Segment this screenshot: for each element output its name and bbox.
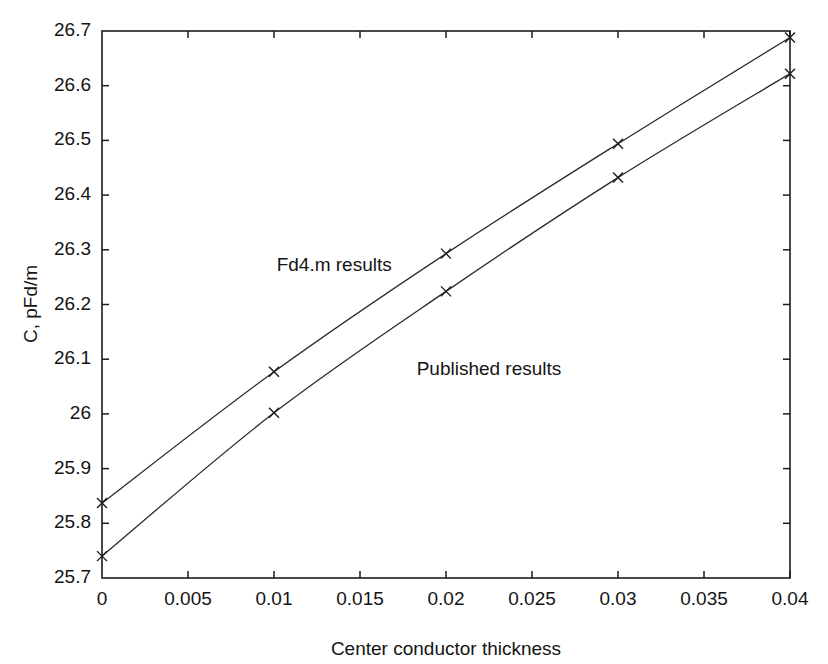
x-axis-title: Center conductor thickness bbox=[331, 638, 561, 659]
x-tick-label: 0.03 bbox=[600, 588, 637, 609]
x-tick-label: 0.02 bbox=[428, 588, 465, 609]
y-tick-label: 26.3 bbox=[54, 238, 91, 259]
y-tick-label: 25.9 bbox=[54, 457, 91, 478]
annotation-fd4m-results: Fd4.m results bbox=[277, 254, 392, 275]
y-axis-title: C, pFd/m bbox=[20, 265, 41, 343]
y-tick-label: 26.7 bbox=[54, 19, 91, 40]
y-tick-label: 26.5 bbox=[54, 128, 91, 149]
annotation-published-results: Published results bbox=[417, 358, 562, 379]
x-tick-label: 0.005 bbox=[164, 588, 212, 609]
y-tick-label: 26 bbox=[70, 402, 91, 423]
y-tick-label: 25.7 bbox=[54, 566, 91, 587]
chart-background bbox=[0, 0, 828, 664]
y-tick-label: 26.2 bbox=[54, 293, 91, 314]
capacitance-line-chart: 00.0050.010.0150.020.0250.030.0350.04 25… bbox=[0, 0, 828, 664]
y-tick-label: 26.6 bbox=[54, 74, 91, 95]
x-tick-label: 0.015 bbox=[336, 588, 384, 609]
chart-figure: 00.0050.010.0150.020.0250.030.0350.04 25… bbox=[0, 0, 828, 664]
y-tick-label: 25.8 bbox=[54, 511, 91, 532]
x-tick-label: 0.01 bbox=[256, 588, 293, 609]
x-axis-tick-labels: 00.0050.010.0150.020.0250.030.0350.04 bbox=[97, 588, 809, 609]
y-tick-label: 26.4 bbox=[54, 183, 91, 204]
x-tick-label: 0.025 bbox=[508, 588, 556, 609]
y-tick-label: 26.1 bbox=[54, 347, 91, 368]
x-tick-label: 0 bbox=[97, 588, 108, 609]
x-tick-label: 0.035 bbox=[680, 588, 728, 609]
x-tick-label: 0.04 bbox=[772, 588, 809, 609]
